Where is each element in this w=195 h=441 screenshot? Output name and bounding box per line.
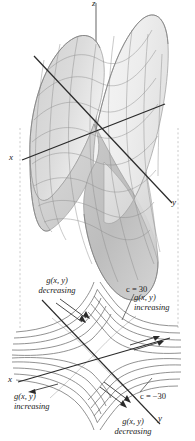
annotation-bottom-right-line2: decreasing — [98, 427, 168, 437]
axis-label-z: z — [92, 0, 96, 9]
contour-axis-label-x: x — [8, 375, 12, 385]
annotation-top-left: g(x, y) decreasing — [26, 276, 88, 295]
annotation-bottom-left: g(x, y) increasing — [14, 392, 76, 411]
leader-bottom-right-2 — [100, 387, 124, 405]
level-label-low: c = −30 — [140, 392, 166, 402]
axis-label-y: y — [172, 198, 176, 208]
annotation-bottom-right: g(x, y) decreasing — [98, 417, 168, 436]
level-label-high: c = 30 — [126, 285, 147, 295]
annotation-top-left-line2: decreasing — [26, 286, 88, 296]
annotation-top-right: g(x, y) increasing — [134, 293, 194, 312]
annotation-top-right-line2: increasing — [134, 303, 194, 313]
axis-label-x: x — [9, 153, 13, 163]
saddle-surface-contour-figure — [0, 0, 195, 441]
surface-3d — [22, 3, 172, 300]
annotation-bottom-left-line2: increasing — [14, 402, 76, 412]
